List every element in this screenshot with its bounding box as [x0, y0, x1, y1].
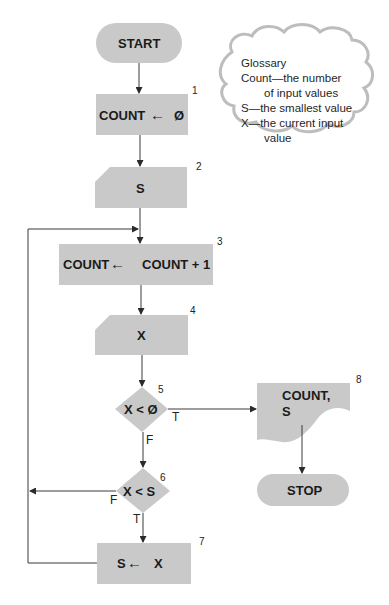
assign-arrow-icon: ←: [110, 256, 125, 271]
node-1-target: COUNT: [99, 108, 145, 123]
glossary-line-s: S—the smallest value: [241, 101, 352, 116]
step-number-2: 2: [196, 161, 202, 172]
node-7-source: X: [154, 556, 163, 571]
node-2-label: S: [136, 181, 145, 196]
node-8-line-1: COUNT,: [282, 388, 330, 403]
step-number-7: 7: [199, 536, 205, 547]
glossary-line-count-cont: of input values: [241, 86, 352, 101]
glossary-line-count: Count—the number: [241, 71, 352, 86]
step-number-6: 6: [160, 472, 166, 483]
assign-arrow-icon: ←: [127, 555, 142, 570]
glossary: Glossary Count—the number of input value…: [241, 56, 352, 146]
step-number-1: 1: [192, 85, 198, 96]
node-7-target: S: [117, 556, 126, 571]
stop-label: STOP: [287, 483, 322, 498]
step-number-4: 4: [190, 305, 196, 316]
node-5-false-label: F: [146, 434, 153, 447]
process-box-7: [97, 543, 191, 584]
step-number-5: 5: [158, 384, 164, 395]
node-5-label: X < Ø: [124, 402, 158, 417]
node-3-source: COUNT + 1: [142, 257, 210, 272]
node-1-source: Ø: [174, 108, 184, 123]
node-8-line-2: S: [282, 404, 291, 419]
node-5-true-label: T: [172, 411, 179, 424]
start-label: START: [118, 36, 160, 51]
step-number-8: 8: [356, 374, 362, 385]
node-6-label: X < S: [123, 484, 155, 499]
node-6-false-label: F: [110, 494, 117, 507]
node-3-target: COUNT: [63, 257, 109, 272]
glossary-line-x-cont: value: [241, 131, 352, 146]
glossary-title: Glossary: [241, 56, 352, 71]
step-number-3: 3: [217, 236, 223, 247]
glossary-line-x: X—the current input: [241, 116, 352, 131]
node-6-true-label: T: [133, 513, 140, 526]
assign-arrow-icon: ←: [150, 107, 165, 122]
node-4-label: X: [137, 328, 146, 343]
